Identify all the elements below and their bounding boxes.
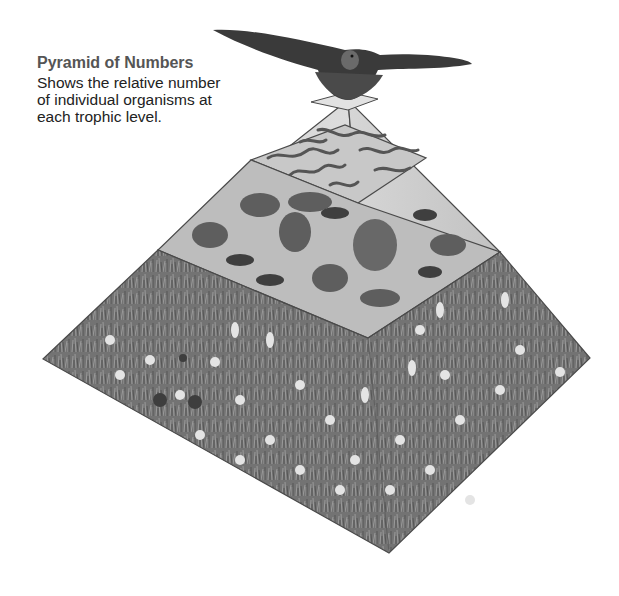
hawk — [213, 30, 472, 100]
pyramid-illustration — [0, 0, 619, 596]
